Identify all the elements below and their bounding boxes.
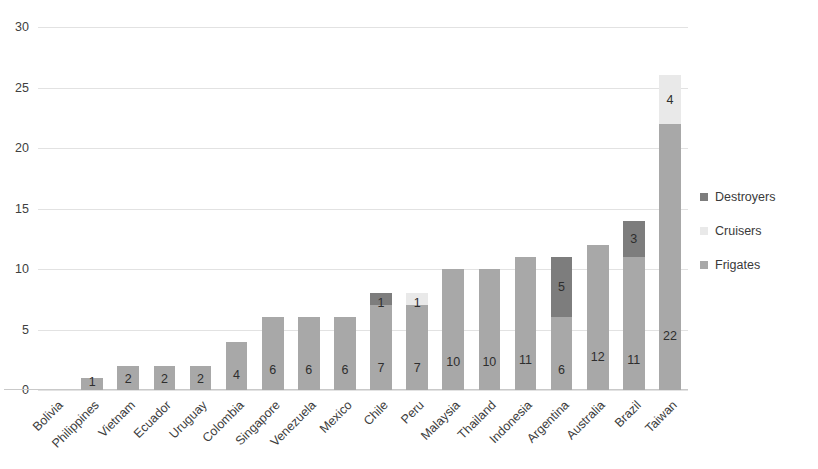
bar-stack[interactable]: 1 [81,378,103,390]
bar-stack[interactable]: 6 [334,317,356,390]
x-label-slot: Mexico [327,390,363,469]
x-axis-category-label: Peru [398,398,427,427]
bar-segment-frigates[interactable]: 10 [442,269,464,390]
x-label-slot: Australia [580,390,616,469]
bar-segment-destroyers[interactable]: 3 [623,221,645,257]
bar-segment-frigates[interactable]: 7 [406,305,428,390]
legend-swatch-icon [700,261,708,269]
bar-slot[interactable]: 224 [652,27,688,390]
bar-segment-frigates[interactable]: 7 [370,305,392,390]
x-axis-labels: BoliviaPhilippinesVietnamEcuadorUruguayC… [38,390,688,469]
bar-segment-cruisers[interactable]: 1 [406,293,428,305]
bar-value-label: 6 [305,364,312,377]
bar-value-label: 22 [663,330,677,343]
bar-segment-frigates[interactable]: 6 [262,317,284,390]
bar-segment-frigates[interactable]: 2 [154,366,176,390]
bar-segment-frigates[interactable]: 2 [117,366,139,390]
x-label-slot: Chile [363,390,399,469]
bar-value-label: 3 [630,233,637,246]
bar-segment-frigates[interactable]: 2 [190,366,212,390]
bar-segment-destroyers[interactable]: 1 [370,293,392,305]
legend-label: Frigates [715,258,760,272]
bar-stack[interactable]: 224 [659,75,681,390]
bar-segment-frigates[interactable]: 6 [551,317,573,390]
bar-value-label: 2 [125,373,132,386]
stacked-bar-chart: 051015202530 122246667171101011651211322… [0,0,818,469]
legend-swatch-icon [700,193,708,201]
bar-slot[interactable]: 71 [363,27,399,390]
bar-slot[interactable]: 2 [182,27,218,390]
bar-value-label: 7 [414,362,421,375]
legend-item[interactable]: Frigates [700,258,775,272]
bar-value-label: 6 [558,364,565,377]
bar-stack[interactable]: 2 [117,366,139,390]
legend-item[interactable]: Destroyers [700,190,775,204]
bar-segment-frigates[interactable]: 22 [659,124,681,390]
bar-slot[interactable]: 4 [219,27,255,390]
y-axis-tick-label: 15 [15,202,29,216]
bar-value-label: 6 [269,364,276,377]
bar-value-label: 4 [233,369,240,382]
bar-stack[interactable]: 12 [587,245,609,390]
bar-value-label: 12 [591,351,605,364]
bar-slot[interactable]: 10 [435,27,471,390]
bar-segment-destroyers[interactable]: 5 [551,257,573,318]
bar-slot[interactable]: 6 [255,27,291,390]
bar-stack[interactable]: 2 [154,366,176,390]
bar-segment-frigates[interactable]: 11 [623,257,645,390]
plot-area: 051015202530 122246667171101011651211322… [38,27,688,390]
bar-value-label: 10 [446,356,460,369]
y-axis-tick-label: 5 [22,323,29,337]
bar-value-label: 1 [89,376,96,389]
bar-segment-frigates[interactable]: 4 [226,342,248,390]
bar-value-label: 6 [341,364,348,377]
x-axis-category-label: Chile [361,398,391,428]
bar-slot[interactable]: 6 [327,27,363,390]
bar-slot[interactable]: 1 [74,27,110,390]
bar-series-container: 1222466671711010116512113224 [38,27,688,390]
bar-slot[interactable]: 11 [507,27,543,390]
bar-slot[interactable]: 65 [544,27,580,390]
y-axis-tick-label: 30 [15,20,29,34]
bar-slot[interactable]: 113 [616,27,652,390]
bar-slot[interactable]: 71 [399,27,435,390]
bar-slot[interactable]: 12 [580,27,616,390]
bar-value-label: 1 [414,297,421,301]
bar-slot[interactable]: 2 [110,27,146,390]
y-axis-tick-label: 25 [15,81,29,95]
bar-segment-frigates[interactable]: 1 [81,378,103,390]
y-axis-tick-label: 10 [15,262,29,276]
x-label-slot: Taiwan [652,390,688,469]
bar-stack[interactable]: 10 [442,269,464,390]
bar-segment-frigates[interactable]: 10 [479,269,501,390]
bar-stack[interactable]: 10 [479,269,501,390]
bar-stack[interactable]: 71 [370,293,392,390]
chart-legend: DestroyersCruisersFrigates [700,190,775,272]
bar-slot[interactable]: 10 [471,27,507,390]
bar-value-label: 4 [666,93,673,106]
bar-stack[interactable]: 65 [551,257,573,390]
legend-label: Cruisers [715,224,762,238]
bar-value-label: 5 [558,281,565,294]
bar-slot[interactable]: 6 [291,27,327,390]
bar-stack[interactable]: 6 [262,317,284,390]
y-axis-tick-label: 20 [15,141,29,155]
bar-slot[interactable]: 2 [146,27,182,390]
bar-stack[interactable]: 6 [298,317,320,390]
bar-segment-cruisers[interactable]: 4 [659,75,681,123]
bar-value-label: 1 [378,297,385,301]
bar-stack[interactable]: 2 [190,366,212,390]
bar-segment-frigates[interactable]: 12 [587,245,609,390]
bar-stack[interactable]: 71 [406,293,428,390]
legend-swatch-icon [700,227,708,235]
bar-stack[interactable]: 113 [623,221,645,390]
bar-stack[interactable]: 4 [226,342,248,390]
bar-stack[interactable]: 11 [515,257,537,390]
bar-segment-frigates[interactable]: 6 [298,317,320,390]
bar-value-label: 2 [197,373,204,386]
bar-value-label: 7 [378,362,385,375]
bar-segment-frigates[interactable]: 11 [515,257,537,390]
legend-item[interactable]: Cruisers [700,224,775,238]
bar-segment-frigates[interactable]: 6 [334,317,356,390]
bar-slot[interactable] [38,27,74,390]
